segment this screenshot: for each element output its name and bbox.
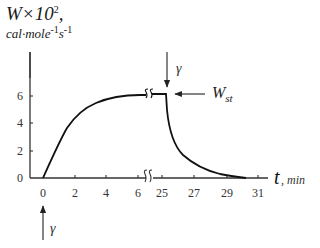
gamma-on-label: γ — [50, 221, 56, 236]
chart-canvas: 6 4 2 0 0 2 4 6 25 27 29 31 t , min γ γ — [0, 0, 320, 248]
svg-text:2: 2 — [72, 186, 78, 200]
svg-text:0: 0 — [17, 171, 23, 185]
gamma-off-label: γ — [176, 61, 182, 76]
wst-label: Wst — [212, 84, 234, 104]
svg-text:6: 6 — [135, 186, 141, 200]
svg-text:27: 27 — [188, 186, 200, 200]
svg-text:6: 6 — [17, 89, 23, 103]
series-decay-line — [152, 94, 246, 178]
series-rise-line — [43, 95, 146, 178]
y-tick-labels: 6 4 2 0 — [17, 89, 23, 185]
svg-text:25: 25 — [156, 186, 168, 200]
svg-text:0: 0 — [40, 186, 46, 200]
svg-text:2: 2 — [17, 144, 23, 158]
svg-text:4: 4 — [17, 116, 23, 130]
svg-text:31: 31 — [252, 186, 264, 200]
svg-text:29: 29 — [221, 186, 233, 200]
x-tick-labels: 0 2 4 6 25 27 29 31 — [40, 186, 264, 200]
svg-text:4: 4 — [103, 186, 109, 200]
x-axis-label-unit: , min — [281, 173, 305, 187]
x-axis-label-symbol: t — [274, 166, 280, 188]
x-axis-break-icon — [144, 170, 152, 182]
plateau-break-icon — [145, 89, 153, 98]
